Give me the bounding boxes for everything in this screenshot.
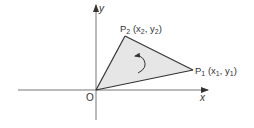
triangle-diagram: y x O P2 (x2, y2) P1 (x1, y1) [0, 0, 254, 128]
point-p2-label: P2 (x2, y2) [120, 23, 162, 35]
x-axis-label: x [199, 92, 206, 103]
point-p1-label: P1 (x1, y1) [195, 65, 237, 77]
y-axis-label: y [98, 3, 105, 14]
origin-label: O [86, 92, 94, 103]
